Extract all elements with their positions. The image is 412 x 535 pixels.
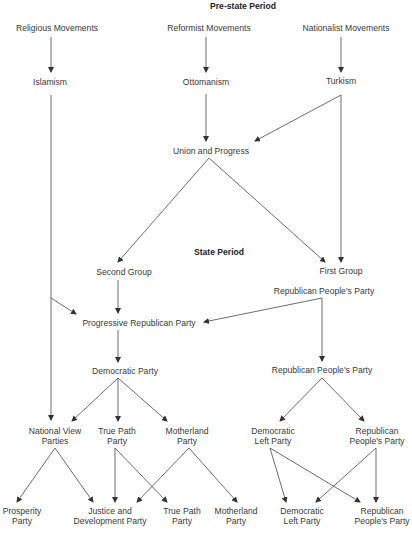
node-democratic-left-party-1: Democratic Left Party [251,426,295,446]
node-islamism: Islamism [33,77,67,87]
node-republican-peoples-party-3: Republican People's Party [349,426,405,446]
node-national-view-parties: National View Parties [29,426,82,446]
node-justice-and-development-party: Justice and Development Party [73,506,147,526]
state-period-heading: State Period [194,247,244,257]
svg-text:Motherland: Motherland [166,426,209,436]
political-lineage-diagram: Pre-state Period State Period Religious … [0,0,412,535]
node-religious-movements: Religious Movements [16,23,98,33]
node-republican-peoples-party-1: Republican People's Party [274,286,375,296]
node-first-group: First Group [320,266,363,276]
svg-text:Party: Party [12,516,33,526]
svg-text:Party: Party [172,516,193,526]
svg-text:Left Party: Left Party [255,436,292,446]
edge-democratic-national-view [72,378,118,421]
node-true-path-party-2: True Path Party [163,506,201,526]
node-republican-peoples-party-4: Republican People's Party [354,506,410,526]
svg-text:Party: Party [177,436,198,446]
svg-text:People's Party: People's Party [349,436,405,446]
node-turkism: Turkism [326,76,356,86]
node-union-and-progress: Union and Progress [173,146,249,156]
edge-national-view-prosperity [17,448,55,502]
svg-text:Development Party: Development Party [73,516,147,526]
node-nationalist-movements: Nationalist Movements [303,23,390,33]
svg-text:Republican: Republican [356,426,399,436]
node-second-group: Second Group [96,267,152,277]
node-true-path-party-1: True Path Party [98,426,136,446]
edge-true-path-true-path [115,448,167,502]
node-motherland-party-2: Motherland Party [215,506,258,526]
node-progressive-republican-party: Progressive Republican Party [82,318,196,328]
edge-national-view-justice [55,448,93,502]
edge-rpp1-progressive [204,298,322,322]
svg-text:National View: National View [29,426,82,436]
node-prosperity-party: Prosperity Party [3,506,42,526]
edge-rpp2-rpp3 [322,378,364,421]
svg-text:Democratic: Democratic [251,426,295,436]
node-democratic-left-party-2: Democratic Left Party [280,506,324,526]
svg-text:Parties: Parties [42,436,69,446]
edge-democratic-motherland [118,378,167,421]
svg-text:Prosperity: Prosperity [3,506,42,516]
svg-text:Party: Party [107,436,128,446]
edge-motherland-motherland [189,448,237,502]
edge-motherland-justice [137,448,189,502]
node-ottomanism: Ottomanism [183,77,229,87]
edge-islamism-progressive [51,298,76,314]
svg-text:Motherland: Motherland [215,506,258,516]
svg-text:Democratic: Democratic [280,506,324,516]
edge-turkism-union [255,95,341,141]
svg-text:Justice and: Justice and [88,506,132,516]
edge-rpp2-democratic-left [280,378,322,421]
svg-text:True Path: True Path [98,426,136,436]
node-republican-peoples-party-2: Republican People's Party [272,365,373,375]
svg-text:Republican: Republican [361,506,404,516]
svg-text:Party: Party [226,516,247,526]
node-motherland-party-1: Motherland Party [166,426,209,446]
node-democratic-party: Democratic Party [92,366,159,376]
node-reformist-movements: Reformist Movements [167,23,251,33]
svg-text:People's Party: People's Party [354,516,410,526]
pre-state-period-heading: Pre-state Period [210,1,276,11]
svg-text:Left Party: Left Party [284,516,321,526]
svg-text:True Path: True Path [163,506,201,516]
